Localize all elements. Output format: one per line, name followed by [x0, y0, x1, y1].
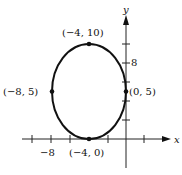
y-axis-label: y — [122, 4, 129, 15]
y-axis-arrow-icon — [123, 15, 129, 25]
x-tick-label: −8 — [40, 147, 55, 158]
label-top: (−4, 10) — [62, 27, 104, 38]
x-axis-label: x — [174, 134, 180, 145]
label-bottom: (−4, 0) — [69, 147, 104, 158]
point-bottom — [87, 137, 92, 142]
label-left: (−8, 5) — [3, 86, 38, 97]
ellipse-curve — [52, 44, 126, 139]
point-left — [50, 89, 55, 94]
point-right — [124, 89, 129, 94]
y-tick-label: 8 — [131, 57, 137, 68]
x-axis-arrow-icon — [162, 136, 171, 142]
ellipse-graph: (−4, 10) (−8, 5) (0, 5) (−4, 0) −8 8 x y — [0, 0, 182, 175]
point-top — [87, 42, 92, 47]
label-right: (0, 5) — [129, 86, 156, 97]
